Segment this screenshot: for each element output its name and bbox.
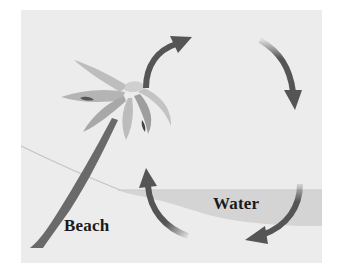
water-label: Water bbox=[213, 194, 259, 214]
convection-diagram bbox=[0, 0, 338, 277]
beach-label: Beach bbox=[64, 216, 109, 236]
